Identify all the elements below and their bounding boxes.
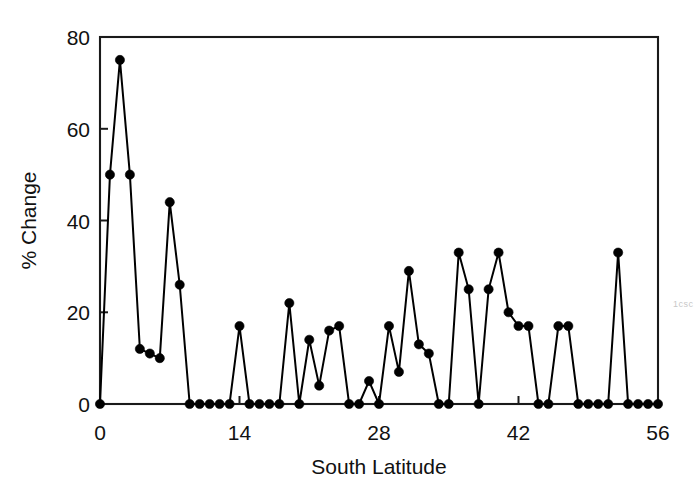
data-point (384, 321, 393, 330)
data-point (315, 381, 324, 390)
y-tick-label-0: 0 (78, 393, 90, 416)
data-point (235, 321, 244, 330)
data-point (643, 399, 652, 408)
data-point (554, 321, 563, 330)
data-point (354, 399, 363, 408)
x-tick-label-56: 56 (646, 421, 669, 444)
y-axis-title: % Change (17, 171, 40, 269)
data-point (225, 399, 234, 408)
data-point (524, 321, 533, 330)
y-tick-marks (100, 37, 108, 404)
data-point (534, 399, 543, 408)
data-point (364, 376, 373, 385)
data-point (275, 399, 284, 408)
data-point (165, 198, 174, 207)
data-point (574, 399, 583, 408)
data-point (414, 340, 423, 349)
y-tick-label-80: 80 (67, 26, 90, 49)
data-point (494, 248, 503, 257)
y-tick-label-60: 60 (67, 118, 90, 141)
data-point (484, 285, 493, 294)
data-point (464, 285, 473, 294)
data-point (624, 399, 633, 408)
data-point (265, 399, 274, 408)
data-point (125, 170, 134, 179)
data-point (434, 399, 443, 408)
data-point (444, 399, 453, 408)
x-tick-label-0: 0 (94, 421, 106, 444)
data-point (504, 308, 513, 317)
data-point (105, 170, 114, 179)
data-point (295, 399, 304, 408)
data-point (285, 298, 294, 307)
x-tick-label-28: 28 (367, 421, 390, 444)
data-point (155, 354, 164, 363)
data-point (95, 399, 104, 408)
data-point (614, 248, 623, 257)
data-point (454, 248, 463, 257)
data-point (474, 399, 483, 408)
data-point (255, 399, 264, 408)
data-point (374, 399, 383, 408)
data-point (653, 399, 662, 408)
data-point (185, 399, 194, 408)
x-tick-label-42: 42 (507, 421, 530, 444)
data-point (335, 321, 344, 330)
data-point (404, 266, 413, 275)
data-point (584, 399, 593, 408)
data-point (245, 399, 254, 408)
data-point (633, 399, 642, 408)
data-point (345, 399, 354, 408)
data-point (145, 349, 154, 358)
data-point (544, 399, 553, 408)
right-edge-artifact-text: 1 c s c (673, 296, 695, 392)
chart-figure: 80 60 40 20 0 0 14 28 42 56 South Latitu… (0, 0, 699, 492)
data-point (195, 399, 204, 408)
series-line (100, 60, 658, 404)
data-point (594, 399, 603, 408)
data-point (604, 399, 613, 408)
x-tick-label-14: 14 (228, 421, 252, 444)
series-markers (95, 55, 662, 408)
y-tick-label-40: 40 (67, 210, 90, 233)
data-point (205, 399, 214, 408)
line-chart: 80 60 40 20 0 0 14 28 42 56 South Latitu… (0, 0, 699, 492)
data-point (215, 399, 224, 408)
data-point (394, 367, 403, 376)
data-point (564, 321, 573, 330)
x-axis-title: South Latitude (311, 455, 446, 478)
data-point (305, 335, 314, 344)
plot-frame (100, 37, 658, 404)
data-point (115, 55, 124, 64)
data-point (514, 321, 523, 330)
data-point (135, 344, 144, 353)
data-point (325, 326, 334, 335)
data-point (424, 349, 433, 358)
data-point (175, 280, 184, 289)
y-tick-label-20: 20 (67, 301, 90, 324)
